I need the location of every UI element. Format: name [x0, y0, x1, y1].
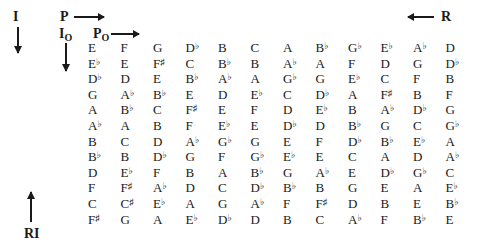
matrix-cell: E: [316, 149, 349, 165]
matrix-cell: D: [381, 56, 414, 72]
matrix-cell: D♭: [283, 118, 316, 134]
matrix-cell: E: [186, 87, 219, 103]
matrix-cell: A: [251, 71, 284, 87]
matrix-cell: C♯: [121, 196, 154, 212]
matrix-cell: G: [251, 134, 284, 150]
matrix-cell: D♭: [251, 180, 284, 196]
matrix-cell: C: [153, 102, 186, 118]
matrix-cell: D: [121, 71, 154, 87]
matrix-cell: A♭: [153, 180, 186, 196]
matrix-cell: F♯: [121, 180, 154, 196]
matrix-cell: F♯: [381, 87, 414, 103]
matrix-cell: E♭: [186, 212, 219, 228]
matrix-cell: E♭: [88, 56, 121, 72]
matrix-cell: B♭: [316, 40, 349, 56]
matrix-cell: D♭: [348, 134, 381, 150]
matrix-cell: E: [121, 56, 154, 72]
matrix-cell: F♯: [153, 56, 186, 72]
matrix-cell: D♭: [381, 165, 414, 181]
matrix-cell: A: [88, 102, 121, 118]
matrix-cell: E: [348, 165, 381, 181]
matrix-row: A♭ABFE♭ED♭DB♭GCG♭: [88, 118, 478, 134]
matrix-cell: G: [186, 149, 219, 165]
matrix-cell: B♭: [348, 118, 381, 134]
matrix-cell: C: [413, 118, 446, 134]
matrix-cell: B♭: [251, 165, 284, 181]
matrix-cell: A: [413, 180, 446, 196]
matrix-cell: A♭: [121, 87, 154, 103]
matrix-cell: G: [88, 87, 121, 103]
matrix-cell: C: [283, 87, 316, 103]
tone-row-matrix: EFGD♭BCAB♭G♭E♭A♭DE♭EF♯CB♭BA♭AFDGD♭D♭DEB♭…: [88, 40, 478, 227]
i-zero-label: IO: [59, 27, 72, 41]
retrograde-inversion-arrow-icon: [30, 192, 32, 222]
matrix-cell: E: [153, 71, 186, 87]
matrix-cell: D: [446, 40, 478, 56]
matrix-cell: G: [348, 180, 381, 196]
matrix-cell: G: [446, 102, 478, 118]
matrix-cell: F: [251, 102, 284, 118]
matrix-cell: G♭: [218, 134, 251, 150]
matrix-cell: F: [413, 71, 446, 87]
matrix-cell: E: [283, 134, 316, 150]
matrix-row: CC♯E♭AGA♭FF♯DBEB♭: [88, 196, 478, 212]
matrix-cell: D♭: [316, 87, 349, 103]
matrix-row: EFGD♭BCAB♭G♭E♭A♭D: [88, 40, 478, 56]
matrix-cell: B: [283, 212, 316, 228]
matrix-cell: E♭: [153, 196, 186, 212]
matrix-cell: E♭: [413, 134, 446, 150]
matrix-row: FF♯A♭DCD♭B♭BGEAE♭: [88, 180, 478, 196]
matrix-cell: B: [88, 134, 121, 150]
matrix-cell: F: [283, 196, 316, 212]
matrix-cell: C: [218, 180, 251, 196]
matrix-cell: C: [348, 149, 381, 165]
matrix-cell: A♭: [218, 71, 251, 87]
retrograde-arrow-icon: [408, 16, 434, 18]
matrix-cell: B♭: [413, 212, 446, 228]
matrix-cell: B♭: [186, 71, 219, 87]
matrix-cell: B♭: [446, 196, 478, 212]
matrix-cell: G: [153, 40, 186, 56]
matrix-cell: A♭: [186, 134, 219, 150]
matrix-cell: A♭: [348, 212, 381, 228]
matrix-cell: A: [381, 149, 414, 165]
matrix-cell: F♯: [88, 212, 121, 228]
retrograde-label: R: [441, 10, 451, 24]
matrix-cell: A♭: [413, 40, 446, 56]
matrix-cell: B♭: [218, 56, 251, 72]
matrix-cell: F: [186, 118, 219, 134]
matrix-cell: D: [283, 102, 316, 118]
matrix-cell: G: [218, 196, 251, 212]
matrix-cell: C: [186, 56, 219, 72]
matrix-cell: C: [446, 165, 478, 181]
matrix-cell: D: [153, 134, 186, 150]
matrix-cell: G: [413, 56, 446, 72]
matrix-cell: G: [283, 165, 316, 181]
matrix-cell: A: [218, 165, 251, 181]
matrix-cell: G♭: [348, 40, 381, 56]
matrix-cell: B♭: [283, 180, 316, 196]
matrix-cell: D♭: [153, 149, 186, 165]
i-zero-subscript: O: [64, 32, 72, 43]
matrix-cell: F: [348, 56, 381, 72]
matrix-cell: G♭: [446, 118, 478, 134]
matrix-cell: B: [251, 56, 284, 72]
matrix-cell: E♭: [381, 40, 414, 56]
matrix-cell: B: [153, 118, 186, 134]
matrix-cell: B: [381, 196, 414, 212]
matrix-cell: E♭: [283, 149, 316, 165]
matrix-cell: D♭: [186, 40, 219, 56]
matrix-row: D♭DEB♭A♭AG♭GE♭CFB: [88, 71, 478, 87]
matrix-cell: D: [251, 212, 284, 228]
matrix-cell: D: [413, 149, 446, 165]
matrix-cell: E: [251, 118, 284, 134]
matrix-cell: C: [251, 40, 284, 56]
matrix-cell: B: [121, 149, 154, 165]
matrix-row: BCDA♭G♭GEFD♭B♭E♭A: [88, 134, 478, 150]
matrix-cell: A: [283, 40, 316, 56]
i-zero-arrow-icon: [65, 43, 67, 71]
matrix-cell: E: [381, 180, 414, 196]
p-zero-arrow-icon: [111, 33, 139, 35]
matrix-cell: B: [186, 165, 219, 181]
matrix-cell: F: [316, 134, 349, 150]
